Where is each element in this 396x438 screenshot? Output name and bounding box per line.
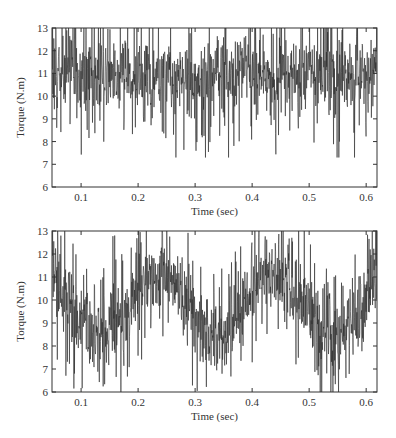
y-tick-label: 7 xyxy=(43,158,49,170)
y-tick-label: 7 xyxy=(43,363,49,375)
x-axis-label: Time (sec) xyxy=(191,205,238,218)
y-tick-label: 12 xyxy=(37,248,48,260)
chart-canvas: 0.10.20.30.40.50.6678910111213Time (sec)… xyxy=(0,0,396,438)
y-tick-label: 11 xyxy=(37,67,48,79)
x-tick-label: 0.3 xyxy=(188,191,202,203)
y-tick-label: 13 xyxy=(37,225,49,237)
bottom-plot: 0.10.20.30.40.50.6678910111213Time (sec)… xyxy=(14,224,377,423)
x-tick-label: 0.2 xyxy=(131,191,145,203)
torque-line xyxy=(52,224,377,397)
x-tick-label: 0.5 xyxy=(302,191,316,203)
y-tick-label: 11 xyxy=(37,271,48,283)
x-tick-label: 0.1 xyxy=(74,396,88,408)
y-tick-label: 13 xyxy=(37,22,49,34)
figure: 0.10.20.30.40.50.6678910111213Time (sec)… xyxy=(0,0,396,438)
y-tick-label: 6 xyxy=(43,181,49,193)
y-tick-label: 6 xyxy=(43,386,49,398)
x-tick-label: 0.2 xyxy=(131,396,145,408)
y-tick-label: 9 xyxy=(43,317,49,329)
y-tick-label: 10 xyxy=(37,294,49,306)
x-tick-label: 0.6 xyxy=(359,396,373,408)
x-tick-label: 0.1 xyxy=(74,191,88,203)
x-tick-label: 0.4 xyxy=(245,396,259,408)
y-tick-label: 10 xyxy=(37,90,49,102)
x-axis-label: Time (sec) xyxy=(191,410,238,423)
torque-line xyxy=(52,21,377,157)
y-axis-label: Torque (N.m) xyxy=(14,77,27,138)
y-tick-label: 9 xyxy=(43,113,49,125)
x-tick-label: 0.5 xyxy=(302,396,316,408)
top-plot: 0.10.20.30.40.50.6678910111213Time (sec)… xyxy=(14,21,377,218)
y-tick-label: 8 xyxy=(43,136,49,148)
y-axis-label: Torque (N.m) xyxy=(14,281,27,342)
x-tick-label: 0.3 xyxy=(188,396,202,408)
y-tick-label: 8 xyxy=(43,340,49,352)
y-tick-label: 12 xyxy=(37,45,48,57)
x-tick-label: 0.6 xyxy=(359,191,373,203)
x-tick-label: 0.4 xyxy=(245,191,259,203)
